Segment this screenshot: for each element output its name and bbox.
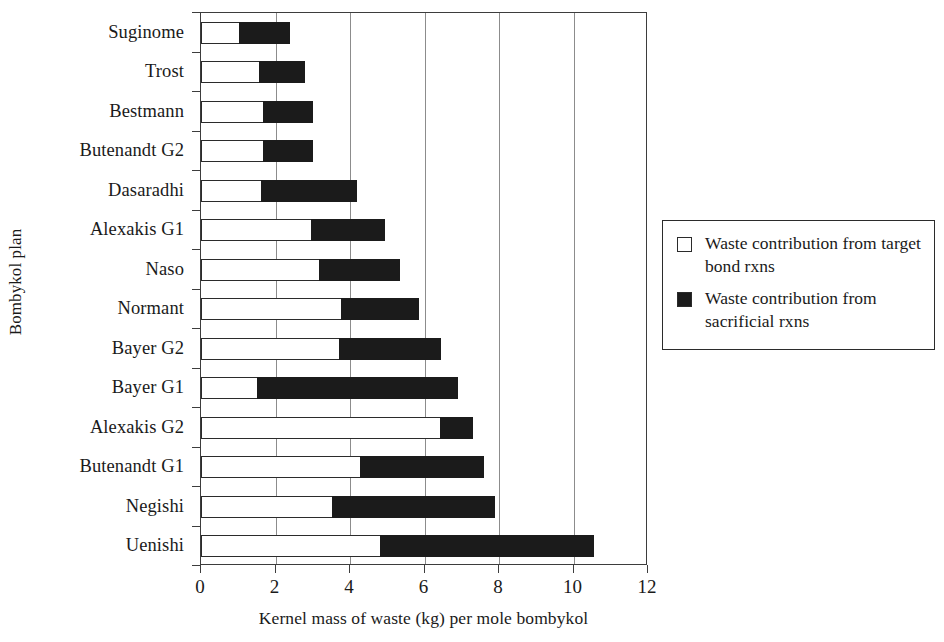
bar-segment-target-bond bbox=[201, 377, 259, 399]
x-axis-title: Kernel mass of waste (kg) per mole bomby… bbox=[200, 608, 647, 629]
bar-segment-sacrificial bbox=[332, 496, 495, 518]
y-axis-tick-mark bbox=[192, 210, 200, 211]
bar-segment-target-bond bbox=[201, 219, 313, 241]
x-axis-tick-mark bbox=[647, 565, 648, 573]
bar-segment-sacrificial bbox=[311, 219, 385, 241]
gridline bbox=[425, 13, 426, 564]
x-axis-tick-mark bbox=[424, 565, 425, 573]
gridline bbox=[350, 13, 351, 564]
bar-segment-sacrificial bbox=[261, 180, 357, 202]
y-axis-tick-label: Alexakis G2 bbox=[90, 417, 184, 437]
x-axis-tick-label: 6 bbox=[404, 576, 444, 598]
bar-row bbox=[201, 61, 648, 83]
y-axis-tick-mark bbox=[192, 170, 200, 171]
x-axis-tick-labels: 024681012 bbox=[0, 576, 944, 604]
bar-segment-sacrificial bbox=[341, 298, 419, 320]
y-axis-tick-mark bbox=[192, 52, 200, 53]
bar-segment-target-bond bbox=[201, 298, 343, 320]
chart-legend: Waste contribution from target bond rxns… bbox=[662, 220, 935, 350]
bar-segment-sacrificial bbox=[239, 22, 291, 44]
y-axis-tick-label: Bestmann bbox=[109, 101, 184, 121]
y-axis-tick-mark bbox=[192, 407, 200, 408]
x-axis-tick-mark bbox=[498, 565, 499, 573]
bar-segment-target-bond bbox=[201, 22, 240, 44]
bar-segment-target-bond bbox=[201, 259, 320, 281]
y-axis-tick-label: Alexakis G1 bbox=[90, 219, 184, 239]
y-axis-tick-label: Bayer G2 bbox=[112, 338, 184, 358]
bar-segment-target-bond bbox=[201, 535, 382, 557]
x-axis-tick-mark bbox=[573, 565, 574, 573]
bar-row bbox=[201, 456, 648, 478]
y-axis-tick-mark bbox=[192, 526, 200, 527]
y-axis-tick-mark bbox=[192, 447, 200, 448]
y-axis-tick-label: Negishi bbox=[126, 496, 184, 516]
y-axis-tick-label: Normant bbox=[118, 298, 184, 318]
x-axis-tick-mark bbox=[275, 565, 276, 573]
y-axis-tick-mark bbox=[192, 368, 200, 369]
y-axis-tick-mark bbox=[192, 249, 200, 250]
bar-segment-target-bond bbox=[201, 496, 333, 518]
bar-segment-sacrificial bbox=[440, 417, 473, 439]
bar-segment-target-bond bbox=[201, 456, 361, 478]
x-axis-tick-label: 10 bbox=[553, 576, 593, 598]
bar-segment-target-bond bbox=[201, 101, 264, 123]
bar-row bbox=[201, 338, 648, 360]
bar-segment-target-bond bbox=[201, 61, 261, 83]
bar-row bbox=[201, 417, 648, 439]
filled-square-icon bbox=[677, 292, 692, 307]
y-axis-tick-label: Trost bbox=[145, 61, 184, 81]
bar-row bbox=[201, 22, 648, 44]
bar-segment-sacrificial bbox=[319, 259, 400, 281]
bar-segment-sacrificial bbox=[339, 338, 441, 360]
y-axis-tick-mark bbox=[192, 131, 200, 132]
y-axis-tick-mark bbox=[192, 565, 200, 566]
hollow-square-icon bbox=[677, 237, 692, 252]
x-axis-tick-label: 12 bbox=[627, 576, 667, 598]
plot-area bbox=[200, 12, 647, 565]
gridline bbox=[499, 13, 500, 564]
y-axis-tick-label: Dasaradhi bbox=[108, 180, 184, 200]
bar-segment-sacrificial bbox=[263, 101, 313, 123]
y-axis-tick-labels: SuginomeTrostBestmannButenandt G2Dasarad… bbox=[10, 12, 192, 565]
bar-row bbox=[201, 101, 648, 123]
bar-segment-target-bond bbox=[201, 338, 341, 360]
bar-row bbox=[201, 180, 648, 202]
bar-segment-sacrificial bbox=[263, 140, 313, 162]
bar-row bbox=[201, 535, 648, 557]
bar-segment-sacrificial bbox=[259, 61, 305, 83]
x-axis-tick-label: 0 bbox=[180, 576, 220, 598]
y-axis-tick-mark bbox=[192, 12, 200, 13]
legend-item-sacrificial: Waste contribution from sacrificial rxns bbox=[677, 287, 934, 333]
legend-item-label: Waste contribution from sacrificial rxns bbox=[705, 287, 934, 333]
legend-item-label: Waste contribution from target bond rxns bbox=[705, 232, 934, 278]
bar-segment-sacrificial bbox=[380, 535, 594, 557]
bar-segment-sacrificial bbox=[257, 377, 458, 399]
bar-segment-target-bond bbox=[201, 140, 264, 162]
y-axis-tick-label: Uenishi bbox=[126, 535, 184, 555]
y-axis-tick-label: Suginome bbox=[108, 22, 184, 42]
y-axis-tick-label: Butenandt G2 bbox=[80, 140, 184, 160]
bar-row bbox=[201, 140, 648, 162]
y-axis-tick-mark bbox=[192, 91, 200, 92]
bar-chart-figure: Bombykol plan SuginomeTrostBestmannButen… bbox=[0, 0, 944, 642]
bar-row bbox=[201, 496, 648, 518]
bar-segment-target-bond bbox=[201, 417, 441, 439]
bar-row bbox=[201, 219, 648, 241]
x-axis-tick-label: 8 bbox=[478, 576, 518, 598]
legend-item-target-bond: Waste contribution from target bond rxns bbox=[677, 232, 934, 278]
x-axis-tick-label: 4 bbox=[329, 576, 369, 598]
y-axis-tick-label: Bayer G1 bbox=[112, 377, 184, 397]
gridline bbox=[574, 13, 575, 564]
y-axis-tick-label: Naso bbox=[146, 259, 184, 279]
bar-row bbox=[201, 298, 648, 320]
bar-segment-sacrificial bbox=[360, 456, 484, 478]
gridline bbox=[276, 13, 277, 564]
y-axis-tick-label: Butenandt G1 bbox=[80, 456, 184, 476]
x-axis-tick-mark bbox=[200, 565, 201, 573]
bar-row bbox=[201, 259, 648, 281]
bar-row bbox=[201, 377, 648, 399]
y-axis-tick-mark bbox=[192, 328, 200, 329]
y-axis-tick-mark bbox=[192, 486, 200, 487]
x-axis-tick-mark bbox=[349, 565, 350, 573]
y-axis-tick-mark bbox=[192, 289, 200, 290]
